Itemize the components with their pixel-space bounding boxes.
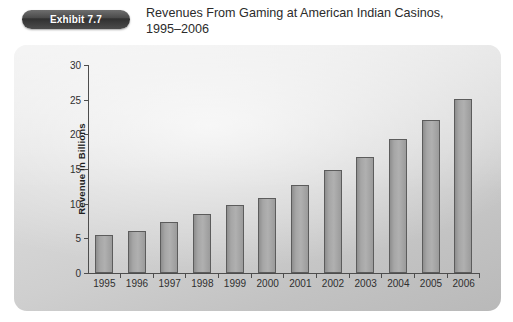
bar-slot-2003 [349, 65, 382, 273]
y-axis-label-10: 10 [70, 198, 81, 209]
x-axis-label-2004: 2004 [382, 278, 415, 289]
x-axis-label-1995: 1995 [88, 278, 121, 289]
x-axis-label-1996: 1996 [121, 278, 154, 289]
y-axis-label-25: 25 [70, 94, 81, 105]
bar-slot-1998 [186, 65, 219, 273]
x-axis-label-2005: 2005 [415, 278, 448, 289]
x-axis-label-1998: 1998 [186, 278, 219, 289]
y-axis-label-5: 5 [75, 233, 81, 244]
chart-title-line-2: 1995–2006 [146, 22, 496, 38]
bar-slot-2005 [415, 65, 448, 273]
bar-slot-1999 [219, 65, 252, 273]
x-axis-label-2000: 2000 [251, 278, 284, 289]
bar-2005 [422, 120, 440, 273]
bar-slot-2001 [284, 65, 317, 273]
bar-2000 [258, 198, 276, 273]
x-axis-label-2006: 2006 [447, 278, 480, 289]
x-axis-label-2001: 2001 [284, 278, 317, 289]
bar-series [88, 65, 480, 273]
bar-2003 [356, 157, 374, 273]
x-axis-label-1997: 1997 [153, 278, 186, 289]
chart-panel: Revenue in Billions 051015202530 1995199… [14, 45, 501, 311]
chart-title-line-1: Revenues From Gaming at American Indian … [146, 6, 496, 22]
bar-2006 [454, 99, 472, 273]
bar-slot-1996 [121, 65, 154, 273]
exhibit-figure: Exhibit 7.7 Revenues From Gaming at Amer… [0, 0, 513, 322]
y-axis-label-30: 30 [70, 60, 81, 71]
bar-slot-1997 [153, 65, 186, 273]
y-axis-label-0: 0 [75, 268, 81, 279]
bar-slot-2006 [447, 65, 480, 273]
bar-2004 [389, 139, 407, 274]
bar-2001 [291, 185, 309, 273]
plot-area: Revenue in Billions 051015202530 1995199… [88, 65, 480, 273]
y-axis-label-15: 15 [70, 164, 81, 175]
bar-1995 [95, 235, 113, 273]
bar-slot-2004 [382, 65, 415, 273]
bar-slot-2000 [251, 65, 284, 273]
bar-2002 [324, 170, 342, 273]
bar-slot-1995 [88, 65, 121, 273]
bar-1996 [128, 231, 146, 273]
exhibit-badge: Exhibit 7.7 [22, 10, 130, 29]
bar-1999 [226, 205, 244, 273]
y-axis-tick-0 [84, 273, 89, 274]
exhibit-header: Exhibit 7.7 Revenues From Gaming at Amer… [0, 0, 513, 48]
chart-title: Revenues From Gaming at American Indian … [146, 6, 496, 37]
y-axis-label-20: 20 [70, 129, 81, 140]
x-axis-label-2002: 2002 [317, 278, 350, 289]
bar-1998 [193, 214, 211, 273]
x-axis-label-2003: 2003 [349, 278, 382, 289]
x-axis-label-1999: 1999 [219, 278, 252, 289]
bar-slot-2002 [317, 65, 350, 273]
bar-1997 [160, 222, 178, 273]
exhibit-badge-label: Exhibit 7.7 [50, 15, 102, 25]
